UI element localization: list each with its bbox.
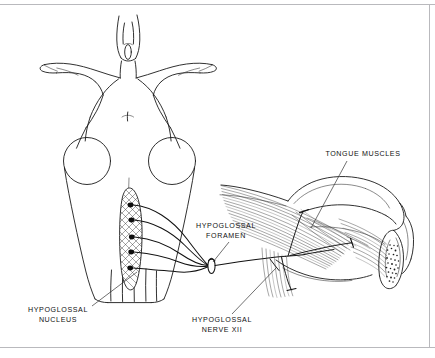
anatomical-figure: TONGUE MUSCLES HYPOGLOSSAL FORAMEN HYPOG… — [0, 0, 435, 358]
tongue-muscle-fibers — [221, 186, 387, 298]
diagram-labels: TONGUE MUSCLES HYPOGLOSSAL FORAMEN HYPOG… — [28, 150, 401, 334]
label-hypoglossal-foramen: HYPOGLOSSAL FORAMEN — [196, 222, 256, 262]
hypoglossal-axon-bundle — [133, 205, 207, 272]
trabecular-bone-stipple — [386, 244, 400, 283]
hypoglossal-nerve-trunk — [215, 254, 305, 265]
label-hypoglossal-nucleus-line1: HYPOGLOSSAL — [28, 306, 88, 314]
label-hypoglossal-foramen-line1: HYPOGLOSSAL — [196, 222, 256, 230]
label-hypoglossal-nucleus: HYPOGLOSSAL NUCLEUS — [28, 272, 137, 324]
label-hypoglossal-nucleus-line2: NUCLEUS — [39, 316, 77, 324]
label-hypoglossal-nerve-xii: HYPOGLOSSAL NERVE XII — [192, 268, 276, 334]
figure-canvas: TONGUE MUSCLES HYPOGLOSSAL FORAMEN HYPOG… — [0, 0, 435, 358]
label-tongue-muscles-text: TONGUE MUSCLES — [325, 150, 400, 158]
tongue-lateral-view — [220, 177, 404, 298]
label-hypoglossal-foramen-line2: FORAMEN — [206, 232, 246, 240]
hypoglossal-nucleus — [108, 165, 150, 304]
label-hypoglossal-nerve-xii-line1: HYPOGLOSSAL — [192, 316, 252, 324]
leader-hypoglossal-foramen — [213, 242, 229, 262]
leader-hypoglossal-nerve-xii — [232, 268, 276, 314]
leader-tongue-muscles — [311, 161, 347, 228]
label-hypoglossal-nerve-xii-line2: NERVE XII — [202, 326, 243, 334]
